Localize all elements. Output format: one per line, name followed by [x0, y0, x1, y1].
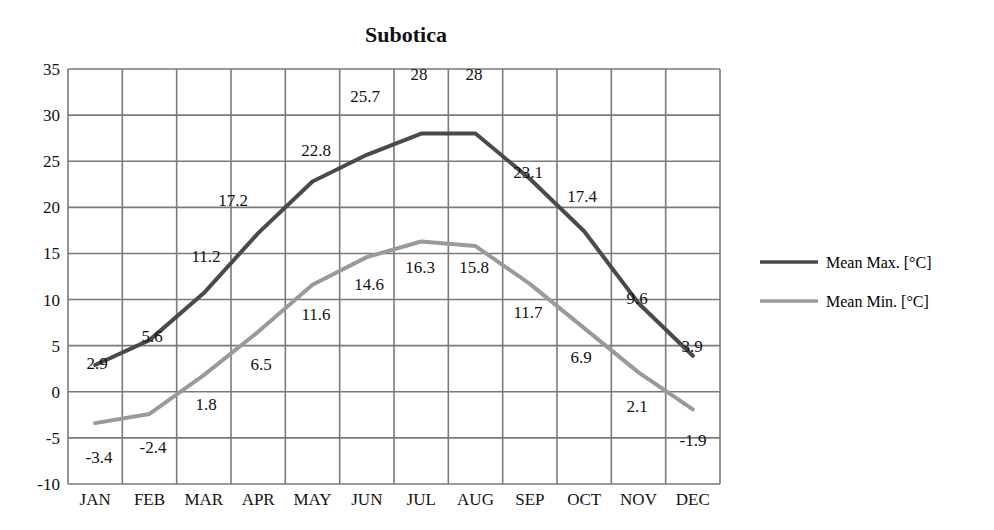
data-label-mean-min: 14.6 — [354, 275, 384, 294]
data-label-mean-max: 5.6 — [141, 327, 162, 346]
y-tick-label: 0 — [52, 383, 61, 402]
y-tick-label: 30 — [43, 106, 60, 125]
data-label-mean-min: -3.4 — [86, 448, 113, 467]
x-tick-label: JUL — [407, 490, 436, 509]
x-tick-label: SEP — [515, 490, 544, 509]
data-label-mean-min: 1.8 — [195, 395, 216, 414]
data-label-mean-max: 3.9 — [681, 337, 702, 356]
x-tick-label: OCT — [567, 490, 602, 509]
data-label-mean-max: 17.4 — [567, 187, 597, 206]
y-tick-label: 20 — [43, 198, 60, 217]
grid — [68, 69, 720, 484]
x-axis-ticks: JANFEBMARAPRMAYJUNJULAUGSEPOCTNOVDEC — [80, 490, 710, 509]
chart-title: Subotica — [365, 22, 447, 47]
x-tick-label: JUN — [351, 490, 382, 509]
legend-label-mean-min: Mean Min. [°C] — [826, 293, 929, 310]
x-tick-label: AUG — [457, 490, 494, 509]
data-label-mean-min: 6.5 — [250, 355, 271, 374]
data-label-mean-min: 11.6 — [301, 305, 330, 324]
data-label-mean-max: 28 — [466, 65, 483, 84]
data-label-mean-min: 2.1 — [626, 397, 647, 416]
data-label-mean-max: 2.9 — [86, 354, 107, 373]
chart: Subotica 35302520151050-5-10 JANFEBMARAP… — [0, 0, 994, 530]
x-tick-label: APR — [242, 490, 276, 509]
y-axis-ticks: 35302520151050-5-10 — [37, 60, 60, 494]
x-tick-label: FEB — [134, 490, 165, 509]
legend-label-mean-max: Mean Max. [°C] — [826, 254, 931, 271]
data-label-mean-max: 25.7 — [350, 87, 380, 106]
data-label-mean-min: 16.3 — [405, 258, 435, 277]
y-tick-label: 10 — [43, 291, 60, 310]
y-tick-label: 15 — [43, 244, 60, 263]
data-label-mean-max: 17.2 — [218, 191, 248, 210]
legend: Mean Max. [°C] Mean Min. [°C] — [760, 254, 931, 310]
data-labels: 2.95.611.217.222.825.7282823.117.49.63.9… — [86, 65, 707, 467]
data-label-mean-max: 9.6 — [626, 289, 647, 308]
data-label-mean-max: 23.1 — [513, 163, 543, 182]
x-tick-label: MAY — [293, 490, 331, 509]
data-label-mean-min: -1.9 — [680, 431, 707, 450]
x-tick-label: JAN — [80, 490, 111, 509]
data-label-mean-min: 15.8 — [459, 258, 489, 277]
x-tick-label: DEC — [676, 490, 710, 509]
x-tick-label: MAR — [184, 490, 223, 509]
data-label-mean-max: 22.8 — [301, 141, 331, 160]
y-tick-label: 35 — [43, 60, 60, 79]
y-tick-label: 5 — [52, 337, 61, 356]
data-label-mean-min: 11.7 — [513, 303, 543, 322]
data-label-mean-min: 6.9 — [570, 348, 591, 367]
y-tick-label: 25 — [43, 152, 60, 171]
y-tick-label: -10 — [37, 475, 60, 494]
data-label-mean-max: 28 — [411, 65, 428, 84]
y-tick-label: -5 — [46, 429, 60, 448]
data-label-mean-max: 11.2 — [191, 247, 220, 266]
x-tick-label: NOV — [620, 490, 658, 509]
data-label-mean-min: -2.4 — [140, 438, 167, 457]
